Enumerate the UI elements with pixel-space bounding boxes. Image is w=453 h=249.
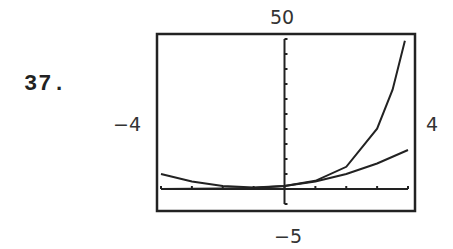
graph-plot (0, 0, 453, 249)
plot-frame (157, 34, 415, 211)
axes (161, 39, 408, 204)
